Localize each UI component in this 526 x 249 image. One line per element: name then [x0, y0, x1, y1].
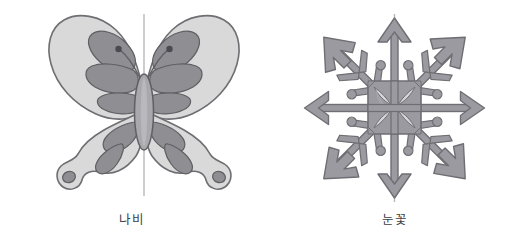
figure-board: 나비 [0, 0, 526, 249]
butterfly-caption: 나비 [119, 214, 144, 227]
figure-panel-butterfly: 나비 [0, 0, 263, 249]
snowflake-center-lattice [368, 81, 421, 134]
butterfly-body-highlight [141, 78, 147, 146]
snowflake-illustration [263, 0, 526, 212]
snowflake-caption: 눈꽃 [382, 214, 407, 227]
butterfly-left-wings [49, 16, 144, 190]
butterfly-illustration [0, 0, 263, 212]
butterfly-right-wings [144, 16, 239, 190]
figure-panel-snowflake: 눈꽃 [263, 0, 526, 249]
